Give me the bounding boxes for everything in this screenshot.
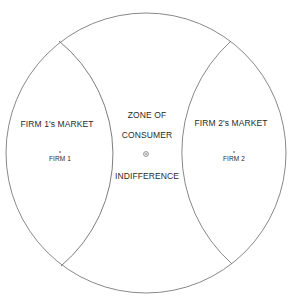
zone-label-line2: CONSUMER (122, 131, 172, 140)
zone-label-line1: ZONE OF (128, 111, 166, 120)
firm2-market-label: FIRM 2's MARKET (194, 119, 267, 128)
firm1-location-dot (59, 151, 61, 153)
center-marker-dot (145, 153, 146, 154)
firm1-market-label: FIRM 1's MARKET (20, 120, 93, 129)
zone-label-line3: INDIFFERENCE (115, 172, 179, 181)
firm2-market-boundary-arc (182, 41, 232, 264)
outer-market-circle (6, 13, 286, 293)
firm1-market-boundary-arc (59, 41, 113, 266)
firm2-location-dot (233, 151, 235, 153)
firm2-label: FIRM 2 (223, 156, 245, 163)
market-diagram (0, 0, 291, 302)
firm1-label: FIRM 1 (49, 156, 71, 163)
